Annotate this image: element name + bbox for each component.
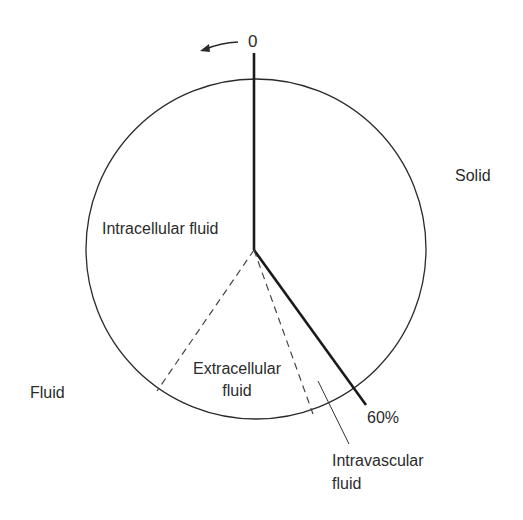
body-fluid-diagram	[0, 0, 523, 520]
intravascular-label-line2: fluid	[332, 476, 361, 492]
intravascular-pointer-line	[318, 381, 349, 444]
fluid-label: Fluid	[30, 385, 65, 401]
intracellular-label: Intracellular fluid	[102, 221, 219, 237]
extracellular-label-line2: fluid	[184, 383, 290, 399]
sixty-percent-label: 60%	[367, 410, 399, 426]
extracellular-label-line1: Extracellular	[184, 361, 290, 377]
sixty-percent-boundary-line	[254, 250, 366, 405]
counterclockwise-arrow-icon	[200, 42, 238, 52]
solid-label: Solid	[455, 168, 491, 184]
intravascular-label-line1: Intravascular	[332, 453, 424, 469]
zero-label: 0	[248, 34, 257, 50]
